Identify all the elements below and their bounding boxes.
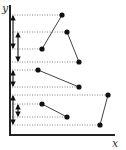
projection-guides bbox=[12, 15, 108, 125]
segment-line bbox=[42, 104, 67, 117]
x-axis-label: x bbox=[112, 137, 119, 150]
point-dot bbox=[97, 122, 102, 127]
point-dot bbox=[59, 12, 64, 17]
point-dot bbox=[76, 59, 81, 64]
point-dot bbox=[39, 46, 44, 51]
axes: y x bbox=[1, 2, 119, 150]
point-dot bbox=[39, 101, 44, 106]
point-dot bbox=[64, 29, 69, 34]
projection-diagram: y x bbox=[0, 0, 126, 150]
segments bbox=[35, 12, 110, 127]
point-dot bbox=[35, 67, 40, 72]
point-dot bbox=[76, 84, 81, 89]
segment-line bbox=[67, 32, 79, 62]
point-dot bbox=[64, 114, 69, 119]
y-axis-label: y bbox=[1, 2, 9, 15]
point-dot bbox=[105, 92, 110, 97]
segment-line bbox=[38, 70, 79, 87]
segment-line bbox=[100, 95, 108, 125]
